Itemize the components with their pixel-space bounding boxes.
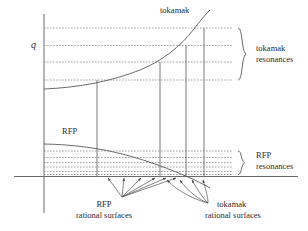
rfp-rational-surfaces-label-group: RFP rational surfaces xyxy=(76,199,132,220)
tokamak-resonances-brace xyxy=(238,28,246,80)
tokamak-resonances-label-line1: tokamak xyxy=(256,43,286,53)
rfp-leader-2 xyxy=(122,178,124,197)
tokamak-resonances-brace-group: tokamak resonances xyxy=(238,28,293,80)
rfp-rational-surfaces-label-line2: rational surfaces xyxy=(76,210,132,220)
rfp-resonances-label-line1: RFP xyxy=(256,150,271,160)
rfp-rational-surfaces-label-line1: RFP xyxy=(96,199,111,209)
rfp-resonances-label-line2: resonances xyxy=(256,161,293,171)
tokamak-q-curve xyxy=(44,10,210,89)
rfp-tokamak-q-profile-figure: tokamak RFP q tokamak resonances RFP res… xyxy=(0,0,308,231)
q-axis-label: q xyxy=(31,39,36,50)
tokamak-rational-surfaces-label-group: tokamak rational surfaces xyxy=(205,199,261,220)
tokamak-rational-surfaces-label-line2: rational surfaces xyxy=(205,210,261,220)
rational-surface-vertical-lines xyxy=(97,28,204,177)
rfp-curve-label: RFP xyxy=(62,126,77,136)
figure-canvas: tokamak RFP q tokamak resonances RFP res… xyxy=(0,0,308,231)
tokamak-resonances-label-line2: resonances xyxy=(256,54,293,64)
tokamak-leader-3 xyxy=(192,180,208,203)
rfp-leader-1 xyxy=(108,178,122,197)
tokamak-leader-4 xyxy=(203,180,208,203)
rfp-resonances-brace-group: RFP resonances xyxy=(238,150,293,175)
tokamak-curve-label: tokamak xyxy=(160,5,190,15)
rfp-resonances-brace xyxy=(238,151,245,175)
tokamak-rational-surfaces-label-line1: tokamak xyxy=(217,199,247,209)
rfp-rational-surface-leaders xyxy=(108,178,176,197)
rfp-leader-5 xyxy=(122,178,166,197)
